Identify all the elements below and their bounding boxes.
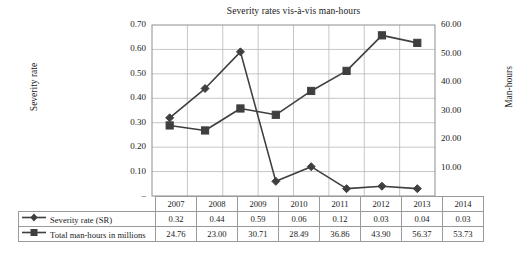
table-value-cell: 0.03: [361, 212, 402, 227]
table-value-cell: 23.00: [197, 227, 238, 242]
data-point-marker: [413, 185, 421, 193]
data-point-marker: [166, 122, 173, 129]
data-point-marker: [343, 67, 350, 74]
table-value-cell: 28.49: [279, 227, 320, 242]
table-corner-cell: [19, 197, 156, 212]
table-year-header: 2012: [361, 197, 402, 212]
left-tick-label: 0.10: [106, 166, 146, 176]
legend-square-marker-icon: [21, 228, 47, 237]
data-table: 20072008200920102011201220132014 Severit…: [18, 196, 484, 242]
left-tick-label: 0.60: [106, 43, 146, 53]
data-point-marker: [272, 177, 280, 185]
table-year-header: 2013: [402, 197, 443, 212]
chart-title: Severity rates vis-à-vis man-hours: [152, 6, 435, 16]
right-tick-label: 40.00: [441, 76, 481, 86]
data-point-marker: [378, 182, 386, 190]
legend-diamond-marker-icon: [21, 213, 47, 222]
table-value-cell: 0.03: [443, 212, 484, 227]
table-value-cell: 53.73: [443, 227, 484, 242]
data-point-marker: [308, 87, 315, 94]
legend-label: Total man-hours in millions: [50, 230, 146, 240]
table-value-cell: 0.32: [156, 212, 197, 227]
table-value-cell: 0.44: [197, 212, 238, 227]
left-axis-title: Severity rate: [29, 22, 39, 152]
table-value-cell: 0.59: [238, 212, 279, 227]
table-year-header: 2010: [279, 197, 320, 212]
left-tick-label: 0.40: [106, 92, 146, 102]
table-value-cell: 0.06: [279, 212, 320, 227]
table-value-cell: 56.37: [402, 227, 443, 242]
right-tick-label: 20.00: [441, 133, 481, 143]
legend-row-manhours: Total man-hours in millions: [19, 227, 156, 242]
right-tick-label: 10.00: [441, 162, 481, 172]
table-value-cell: 0.12: [320, 212, 361, 227]
right-tick-label: 30.00: [441, 105, 481, 115]
data-point-marker: [272, 111, 279, 118]
table-year-header: 2014: [443, 197, 484, 212]
data-point-marker: [378, 32, 385, 39]
table-value-cell: 36.86: [320, 227, 361, 242]
data-point-marker: [414, 39, 421, 46]
table-year-header: 2008: [197, 197, 238, 212]
data-point-marker: [343, 185, 351, 193]
table-value-cell: 0.04: [402, 212, 443, 227]
table-value-cell: 24.76: [156, 227, 197, 242]
table-value-cell: 43.90: [361, 227, 402, 242]
right-tick-label: 50.00: [441, 48, 481, 58]
right-tick-label: 60.00: [441, 19, 481, 29]
table-year-header: 2007: [156, 197, 197, 212]
plot-svg: [152, 25, 435, 196]
left-tick-label: 0.30: [106, 117, 146, 127]
left-tick-label: 0.20: [106, 141, 146, 151]
legend-label: Severity rate (SR): [50, 215, 112, 225]
table-value-cell: 30.71: [238, 227, 279, 242]
legend-row-severity: Severity rate (SR): [19, 212, 156, 227]
chart-figure: Severity rates vis-à-vis man-hours Sever…: [0, 0, 527, 255]
left-tick-label: 0.70: [106, 19, 146, 29]
left-tick-label: 0.50: [106, 68, 146, 78]
plot-area: [152, 25, 435, 196]
table-header-row: 20072008200920102011201220132014: [19, 197, 484, 212]
right-axis-title: Man-hours: [504, 22, 514, 152]
table-row: Total man-hours in millions 24.7623.0030…: [19, 227, 484, 242]
data-point-marker: [237, 105, 244, 112]
table-year-header: 2009: [238, 197, 279, 212]
data-point-marker: [201, 127, 208, 134]
table-row: Severity rate (SR) 0.320.440.590.060.120…: [19, 212, 484, 227]
table-year-header: 2011: [320, 197, 361, 212]
data-point-marker: [307, 163, 315, 171]
